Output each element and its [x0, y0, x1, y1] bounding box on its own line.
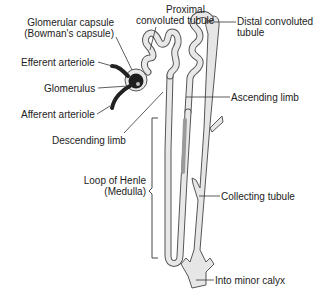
- label-minor-calyx: Into minor calyx: [215, 275, 285, 286]
- label-glomerular-capsule: Glomerular capsule (Bowman's capsule): [2, 17, 114, 39]
- label-line: convoluted tubule: [136, 15, 214, 26]
- label-ascending-limb: Ascending limb: [231, 92, 299, 103]
- nephron-diagram: [0, 0, 320, 298]
- label-line: tubule: [237, 27, 313, 38]
- label-line: Glomerular capsule: [2, 17, 114, 28]
- label-loop-of-henle: Loop of Henle (Medulla): [70, 175, 146, 197]
- label-descending-limb: Descending limb: [52, 135, 126, 146]
- afferent-arteriole-shape: [112, 86, 130, 108]
- label-distal-tubule: Distal convoluted tubule: [237, 16, 313, 38]
- label-line: Distal convoluted: [237, 16, 313, 27]
- label-line: Loop of Henle: [70, 175, 146, 186]
- label-afferent-arteriole: Afferent arteriole: [21, 109, 95, 120]
- efferent-arteriole-shape: [112, 66, 128, 76]
- label-line: Proximal: [136, 4, 214, 15]
- label-line: (Medulla): [70, 186, 146, 197]
- label-glomerulus: Glomerulus: [44, 83, 95, 94]
- loop-brace: [149, 118, 158, 258]
- label-efferent-arteriole: Efferent arteriole: [21, 57, 95, 68]
- label-proximal-tubule: Proximal convoluted tubule: [136, 4, 214, 26]
- label-collecting-tubule: Collecting tubule: [221, 191, 295, 202]
- label-line: (Bowman's capsule): [2, 28, 114, 39]
